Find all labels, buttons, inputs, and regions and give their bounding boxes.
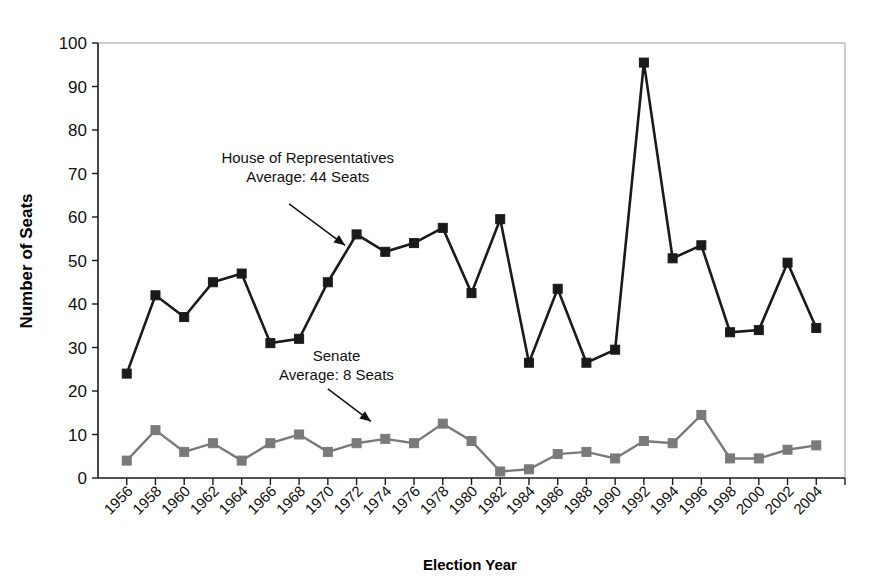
series-senate — [122, 410, 821, 476]
data-point-marker — [180, 313, 189, 322]
x-tick-label: 1982 — [474, 482, 510, 518]
data-point-marker — [553, 450, 562, 459]
data-series-layer — [122, 58, 821, 476]
data-point-marker — [668, 254, 677, 263]
house-annotation: House of RepresentativesAverage: 44 Seat… — [221, 149, 394, 246]
data-point-marker — [122, 369, 131, 378]
annotation-arrow-head — [334, 235, 346, 245]
data-point-marker — [496, 215, 505, 224]
y-tick-label: 100 — [59, 34, 87, 53]
data-point-marker — [553, 284, 562, 293]
x-tick-label: 1994 — [646, 482, 682, 518]
x-tick-label: 1962 — [186, 482, 222, 518]
x-tick-label: 2000 — [732, 482, 768, 518]
x-tick-label: 1976 — [388, 482, 424, 518]
data-point-marker — [237, 456, 246, 465]
y-axis-label: Number of Seats — [17, 193, 36, 328]
annotation-arrow-head — [359, 411, 371, 421]
data-point-marker — [697, 241, 706, 250]
data-point-marker — [582, 358, 591, 367]
data-point-marker — [410, 439, 419, 448]
x-tick-label: 1974 — [359, 482, 395, 518]
x-tick-label: 1996 — [675, 482, 711, 518]
data-point-marker — [323, 278, 332, 287]
data-point-marker — [295, 334, 304, 343]
x-tick-label: 1966 — [244, 482, 280, 518]
data-point-marker — [266, 439, 275, 448]
data-point-marker — [754, 326, 763, 335]
x-tick-label: 1992 — [617, 482, 653, 518]
x-tick-label: 2002 — [761, 482, 797, 518]
data-point-marker — [438, 223, 447, 232]
seats-line-chart: 0102030405060708090100 19561958196019621… — [0, 0, 870, 581]
data-point-marker — [467, 437, 476, 446]
data-point-marker — [754, 454, 763, 463]
data-point-marker — [524, 465, 533, 474]
data-point-marker — [726, 454, 735, 463]
x-tick-label: 1968 — [273, 482, 309, 518]
data-point-marker — [582, 447, 591, 456]
data-point-marker — [208, 278, 217, 287]
data-point-marker — [639, 58, 648, 67]
y-tick-label: 10 — [68, 426, 87, 445]
data-point-marker — [295, 430, 304, 439]
data-point-marker — [352, 439, 361, 448]
x-tick-label: 1984 — [502, 482, 538, 518]
x-tick-label: 1986 — [531, 482, 567, 518]
data-point-marker — [151, 291, 160, 300]
data-point-marker — [180, 447, 189, 456]
data-point-marker — [122, 456, 131, 465]
data-point-marker — [467, 289, 476, 298]
data-point-marker — [611, 454, 620, 463]
plot-frame — [98, 43, 845, 478]
y-tick-label: 60 — [68, 208, 87, 227]
data-point-marker — [611, 345, 620, 354]
data-point-marker — [352, 230, 361, 239]
data-point-marker — [266, 339, 275, 348]
series-house — [122, 58, 821, 378]
data-point-marker — [381, 247, 390, 256]
x-tick-label: 1990 — [589, 482, 625, 518]
x-tick-label: 1980 — [445, 482, 481, 518]
x-tick-label: 1960 — [158, 482, 194, 518]
y-tick-label: 30 — [68, 339, 87, 358]
senate-annotation: SenateAverage: 8 Seats — [279, 347, 394, 422]
y-tick-label: 90 — [68, 78, 87, 97]
data-point-marker — [783, 258, 792, 267]
annotation-line: Average: 8 Seats — [279, 366, 394, 383]
data-point-marker — [697, 410, 706, 419]
y-tick-label: 80 — [68, 121, 87, 140]
x-axis-ticks — [127, 478, 845, 485]
y-axis-ticks: 0102030405060708090100 — [59, 34, 98, 488]
x-tick-label: 1988 — [560, 482, 596, 518]
data-point-marker — [208, 439, 217, 448]
x-tick-label: 1978 — [416, 482, 452, 518]
data-point-marker — [524, 358, 533, 367]
annotation-line: Senate — [313, 347, 361, 364]
chart-figure: 0102030405060708090100 19561958196019621… — [0, 0, 870, 581]
data-point-marker — [151, 426, 160, 435]
y-tick-label: 40 — [68, 295, 87, 314]
x-tick-label: 1956 — [100, 482, 136, 518]
y-tick-label: 50 — [68, 252, 87, 271]
data-point-marker — [381, 434, 390, 443]
data-point-marker — [639, 437, 648, 446]
x-tick-label: 1970 — [301, 482, 337, 518]
series-line — [127, 63, 817, 374]
x-axis-label: Election Year — [423, 556, 517, 573]
y-tick-label: 0 — [78, 469, 87, 488]
x-axis-tick-labels: 1956195819601962196419661968197019721974… — [100, 482, 825, 518]
data-point-marker — [496, 467, 505, 476]
x-tick-label: 1998 — [704, 482, 740, 518]
data-point-marker — [812, 441, 821, 450]
data-point-marker — [438, 419, 447, 428]
data-point-marker — [668, 439, 677, 448]
x-tick-label: 1958 — [129, 482, 165, 518]
data-point-marker — [323, 447, 332, 456]
data-point-marker — [783, 445, 792, 454]
data-point-marker — [410, 239, 419, 248]
y-tick-label: 20 — [68, 382, 87, 401]
data-point-marker — [237, 269, 246, 278]
x-tick-label: 1972 — [330, 482, 366, 518]
data-point-marker — [726, 328, 735, 337]
